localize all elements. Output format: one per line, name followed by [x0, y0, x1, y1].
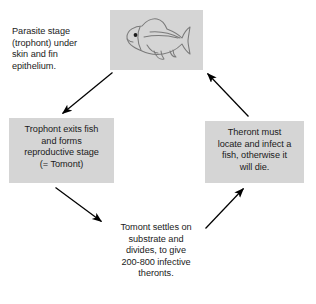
fish-illustration-panel: [110, 10, 203, 70]
tomont-line-1: Tomont settles on: [96, 222, 216, 234]
fish-eye-icon: [134, 33, 138, 37]
trophont-line-2: and forms: [9, 136, 114, 148]
trophont-line-4: (= Tomont): [9, 159, 114, 171]
tomont-line-5: theronts.: [96, 268, 216, 280]
life-cycle-diagram: Parasite stage (trophont) under skin and…: [0, 0, 316, 304]
theront-line-1: Theront must: [205, 127, 304, 139]
parasite-line-3: skin and fin: [12, 49, 116, 61]
tomont-stage-caption: Tomont settles on substrate and divides,…: [96, 222, 216, 280]
arrow-trophont-to-tomont: [56, 188, 102, 222]
fish-icon: [110, 10, 203, 70]
trophont-line-3: reproductive stage: [9, 147, 114, 159]
arrow-theront-to-fish: [208, 74, 249, 117]
tomont-line-4: 200-800 infective: [96, 257, 216, 269]
theront-line-4: will die.: [205, 162, 304, 174]
parasite-stage-caption: Parasite stage (trophont) under skin and…: [12, 26, 116, 72]
theront-line-2: locate and infect a: [205, 139, 304, 151]
trophont-line-1: Trophont exits fish: [9, 124, 114, 136]
tomont-line-2: substrate and: [96, 234, 216, 246]
trophont-stage-box: Trophont exits fish and forms reproducti…: [9, 118, 114, 183]
theront-line-3: fish, otherwise it: [205, 150, 304, 162]
parasite-line-4: epithelium.: [12, 61, 116, 73]
tomont-line-3: divides, to give: [96, 245, 216, 257]
theront-stage-box: Theront must locate and infect a fish, o…: [205, 121, 304, 183]
parasite-line-2: (trophont) under: [12, 38, 116, 50]
parasite-line-1: Parasite stage: [12, 26, 116, 38]
arrow-fish-to-trophont: [63, 73, 113, 114]
